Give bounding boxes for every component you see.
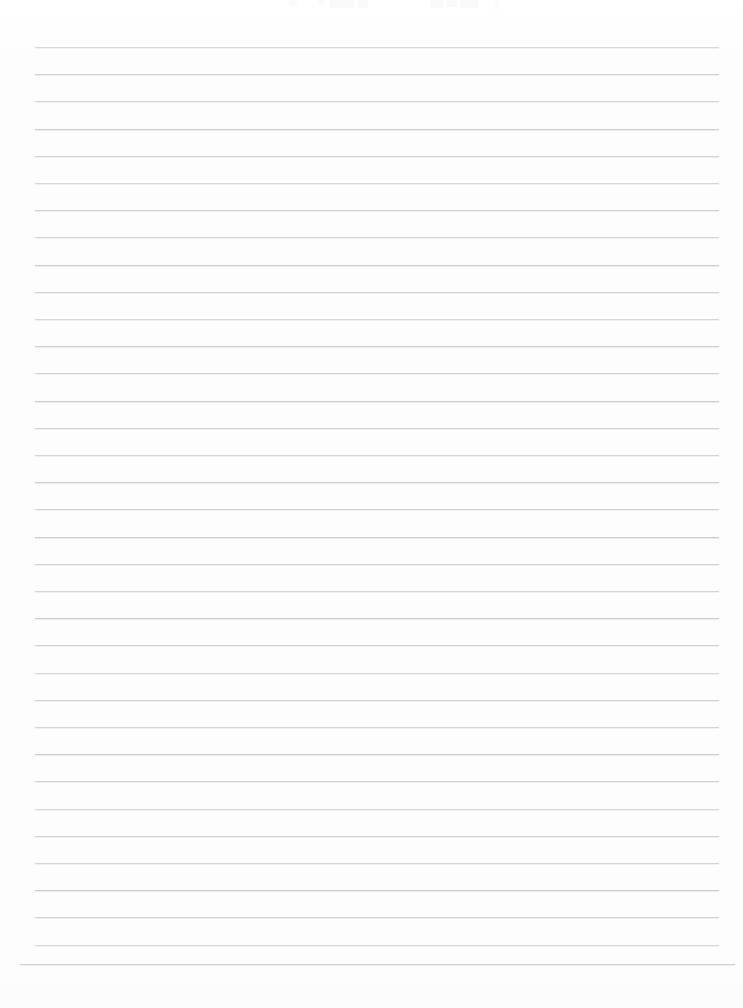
ruled-line [35,156,719,157]
ruled-line [35,700,719,701]
ruled-line [35,564,719,565]
ruled-line [35,890,719,891]
ruled-line [35,455,719,456]
ruled-line [35,47,719,48]
ruled-line [35,863,719,864]
ruled-line [35,917,719,918]
ruled-line [35,237,719,238]
ruled-line [35,74,719,75]
ruled-line [35,754,719,755]
ruled-line [35,373,719,374]
ruled-line [35,101,719,102]
ruled-line [35,292,719,293]
ruled-line [35,945,719,946]
ruled-line [35,537,719,538]
ruled-line [35,210,719,211]
ruled-line [35,781,719,782]
ruled-line [35,265,719,266]
ruled-line [35,645,719,646]
ruled-line [35,673,719,674]
ruled-line [35,809,719,810]
ruled-line [35,591,719,592]
scanned-page [0,0,743,1008]
ruled-line [35,428,719,429]
ruled-lines-group [0,0,743,1008]
ruled-line [35,482,719,483]
ruled-line [35,618,719,619]
ruled-line [35,401,719,402]
ruled-line [35,319,719,320]
ruled-line [35,346,719,347]
ruled-line [35,727,719,728]
ruled-line [35,183,719,184]
ruled-line [35,129,719,130]
ruled-line [35,509,719,510]
ruled-line [20,964,735,965]
ruled-line [35,836,719,837]
